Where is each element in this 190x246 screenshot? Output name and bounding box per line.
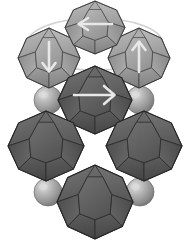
figure-root: Polyhedral nanocrystal cluster with magn…: [0, 0, 190, 246]
polyhedra-figure: [0, 0, 190, 246]
